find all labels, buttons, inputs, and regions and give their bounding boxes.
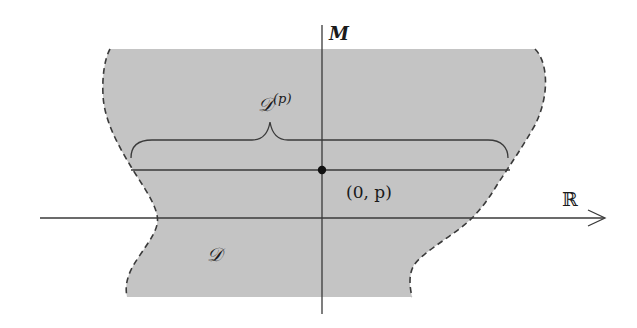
point-dot-icon bbox=[318, 166, 326, 174]
horizontal-axis-label: ℝ bbox=[562, 190, 578, 209]
vertical-axis-label: M bbox=[329, 25, 349, 43]
diagram-canvas bbox=[0, 0, 637, 328]
slice-set-label: 𝒟(p) bbox=[258, 95, 291, 114]
point-label: (0, p) bbox=[346, 184, 392, 201]
slice-set-superscript: (p) bbox=[273, 91, 291, 106]
diagram-figure: M ℝ (0, p) 𝒟(p) 𝒟 bbox=[0, 0, 637, 328]
slice-set-base: 𝒟 bbox=[258, 93, 273, 115]
region-label: 𝒟 bbox=[207, 245, 222, 264]
